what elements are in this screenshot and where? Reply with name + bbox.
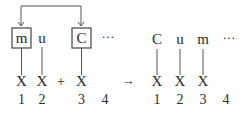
right-x-2: X (175, 73, 186, 89)
left-index-2: 2 (39, 92, 46, 107)
right-index-3: 3 (200, 92, 207, 107)
left-x-2: X (37, 73, 48, 89)
right-token-u: u (176, 31, 184, 47)
right-token-ellipsis: ··· (223, 30, 236, 45)
right-token-m: m (197, 31, 209, 47)
left-token-c: C (76, 30, 86, 46)
left-index-4: 4 (102, 92, 109, 107)
right-index-1: 1 (154, 92, 161, 107)
right-index-2: 2 (177, 92, 184, 107)
transform-arrow-icon: → (122, 73, 135, 88)
left-x-1: X (16, 73, 27, 89)
swap-diagram: m u C ··· X X + X 1 2 3 4 → C u m ··· X … (0, 0, 244, 114)
right-x-3: X (198, 73, 209, 89)
left-index-1: 1 (18, 92, 25, 107)
left-index-3: 3 (78, 92, 85, 107)
left-token-m: m (16, 30, 28, 46)
right-index-4: 4 (223, 92, 230, 107)
swap-connector-line (21, 6, 81, 26)
left-x-3: X (76, 73, 87, 89)
left-token-u: u (38, 30, 46, 46)
left-token-ellipsis: ··· (102, 29, 115, 44)
plus-sign: + (57, 74, 65, 89)
right-token-c: C (152, 31, 162, 47)
right-x-1: X (152, 73, 163, 89)
